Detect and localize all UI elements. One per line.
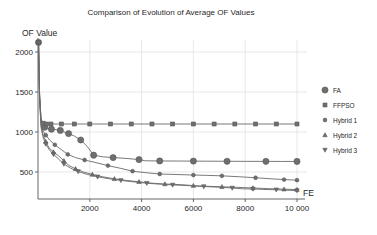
data-point-marker (254, 176, 258, 180)
data-point-marker (171, 122, 175, 126)
data-point-marker (57, 127, 63, 133)
data-point-marker (158, 172, 162, 176)
data-point-marker (66, 153, 70, 157)
data-point-marker (131, 169, 135, 173)
y-tick-label: 1000 (15, 128, 33, 137)
data-point-marker (106, 164, 110, 168)
data-point-marker (72, 122, 76, 126)
data-point-marker (274, 122, 278, 126)
data-point-marker (294, 158, 300, 164)
data-point-marker (136, 157, 142, 163)
y-tick-label: 2000 (15, 48, 33, 57)
data-point-marker (295, 178, 299, 182)
chart-figure: Comparison of Evolution of Average OF Va… (0, 0, 377, 235)
legend-label: FA (333, 87, 342, 94)
data-point-marker (59, 122, 63, 126)
data-point-marker (282, 178, 286, 182)
legend-label: Hybrid 2 (333, 132, 358, 140)
data-point-marker (220, 174, 224, 178)
data-point-marker (190, 158, 196, 164)
x-tick-label: 8000 (236, 204, 254, 213)
x-tick-label: 2000 (81, 204, 99, 213)
data-point-marker (91, 152, 97, 158)
data-point-marker (150, 122, 154, 126)
data-point-marker (44, 133, 48, 137)
x-tick-label: 10 000 (285, 204, 310, 213)
data-point-marker (78, 137, 84, 143)
y-tick-label: 500 (20, 168, 34, 177)
data-point-marker (224, 158, 230, 164)
data-point-marker (322, 87, 328, 93)
data-point-marker (263, 158, 269, 164)
data-point-marker (233, 122, 237, 126)
legend-label: Hybrid 1 (333, 117, 358, 125)
data-point-marker (295, 122, 299, 126)
data-point-marker (212, 122, 216, 126)
x-tick-label: 6000 (185, 204, 203, 213)
data-point-marker (48, 126, 54, 132)
data-point-marker (44, 122, 48, 126)
data-point-marker (157, 158, 163, 164)
data-point-marker (110, 155, 116, 161)
data-point-marker (323, 103, 327, 107)
data-point-marker (109, 122, 113, 126)
data-point-marker (129, 122, 133, 126)
data-point-marker (191, 122, 195, 126)
x-axis-label: FE (303, 188, 314, 198)
data-point-marker (192, 173, 196, 177)
legend-label: FFPSO (333, 102, 355, 109)
data-point-marker (65, 131, 71, 137)
y-axis-label: OF Value (22, 28, 58, 38)
data-point-marker (49, 122, 53, 126)
data-point-marker (53, 143, 57, 147)
data-point-marker (88, 122, 92, 126)
chart-title: Comparison of Evolution of Average OF Va… (88, 8, 255, 17)
data-point-marker (323, 118, 327, 122)
x-tick-label: 4000 (133, 204, 151, 213)
y-tick-label: 1500 (15, 88, 33, 97)
legend-label: Hybrid 3 (333, 147, 358, 155)
data-point-marker (254, 122, 258, 126)
data-point-marker (83, 158, 87, 162)
